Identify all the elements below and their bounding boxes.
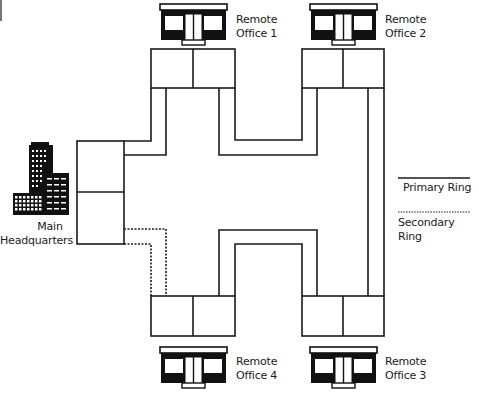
office1-label-line1: Remote (236, 13, 277, 27)
hq-label: Main (20, 220, 80, 234)
office4-storefront-icon (160, 347, 227, 388)
office2-label-line2: Office 2 (385, 27, 426, 41)
office4-label: Remote Office 4 (236, 355, 277, 383)
secondary-ring (124, 229, 166, 296)
office3-label-line2: Office 3 (385, 369, 426, 383)
hq-label-line2: Headquarters (0, 234, 73, 248)
office4-label-line1: Remote (236, 355, 277, 369)
office3-label: Remote Office 3 (385, 355, 426, 383)
office-building-icon (13, 142, 69, 215)
legend-primary-label: Primary Ring (403, 181, 471, 195)
office2-label-line1: Remote (385, 13, 426, 27)
legend-secondary-label: Secondary Ring (398, 216, 479, 244)
office2-label: Remote Office 2 (385, 13, 426, 41)
office4-label-line2: Office 4 (236, 369, 277, 383)
office1-label: Remote Office 1 (236, 13, 277, 41)
office3-label-line1: Remote (385, 355, 426, 369)
office3-storefront-icon (310, 347, 377, 388)
office1-label-line2: Office 1 (236, 27, 277, 41)
office2-storefront-icon (310, 4, 377, 45)
topology-diagram (0, 0, 479, 393)
office1-storefront-icon (160, 4, 227, 45)
hq-label-line1: Main (20, 220, 80, 234)
primary-ring (77, 49, 384, 336)
